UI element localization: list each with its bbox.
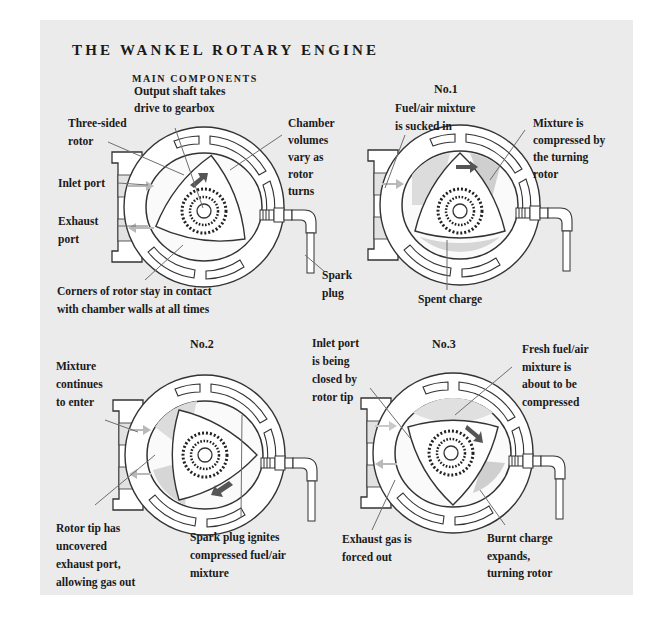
stage-3-leader-lines [0, 0, 665, 632]
label-burnt-charge: Burnt charge expands, turning rotor [487, 530, 552, 583]
label-exhaust-gas-forced-out: Exhaust gas is forced out [342, 530, 412, 566]
label-inlet-port-closing: Inlet port is being closed by rotor tip [312, 334, 359, 406]
label-fresh-fuel-air: Fresh fuel/air mixture is about to be co… [522, 341, 589, 411]
